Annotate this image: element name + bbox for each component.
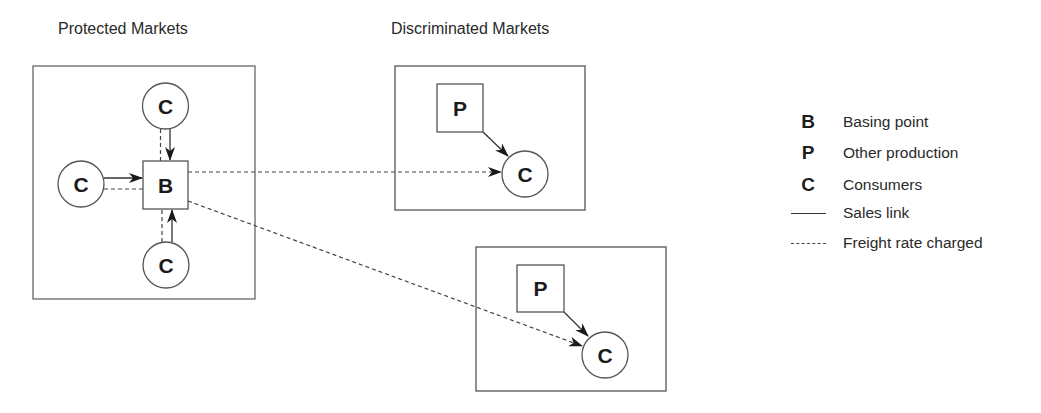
producer-label: P	[453, 97, 467, 120]
consumer-label: C	[517, 163, 532, 186]
legend-label: Other production	[843, 144, 958, 162]
legend-item-basing-point: B Basing point	[788, 109, 1038, 135]
sales-link	[483, 132, 508, 156]
discriminated-market-2: P C	[476, 247, 666, 391]
legend-item-freight-rate: Freight rate charged	[788, 230, 1038, 256]
consumer-label: C	[158, 95, 173, 118]
legend-label: Basing point	[843, 113, 928, 131]
consumer-node-bottom: C	[143, 242, 189, 288]
legend-item-consumers: C Consumers	[788, 172, 1038, 198]
basing-point-node: B	[143, 161, 188, 209]
consumer-node-top: C	[143, 83, 189, 129]
producer-node: P	[517, 265, 564, 312]
consumer-node: C	[582, 332, 628, 378]
protected-market-region: C C C B	[33, 66, 255, 299]
legend-label: Freight rate charged	[843, 234, 983, 252]
producer-node: P	[437, 84, 483, 132]
sales-link	[564, 312, 588, 336]
legend-item-sales-link: Sales link	[788, 200, 1038, 226]
consumer-label: C	[158, 254, 173, 277]
legend-label: Sales link	[843, 204, 909, 222]
consumer-label: C	[73, 173, 88, 196]
producer-label: P	[533, 277, 547, 300]
dashed-line-icon	[788, 243, 828, 244]
basing-point-label: B	[158, 174, 173, 197]
consumer-node: C	[502, 151, 548, 197]
consumer-label: C	[597, 344, 612, 367]
legend-symbol-b: B	[788, 111, 828, 133]
consumer-node-left: C	[58, 161, 104, 207]
legend-symbol-p: P	[788, 142, 828, 164]
discriminated-market-1: P C	[395, 66, 585, 210]
legend-item-other-production: P Other production	[788, 140, 1038, 166]
solid-line-icon	[788, 213, 828, 214]
legend-label: Consumers	[843, 176, 922, 194]
legend-symbol-c: C	[788, 174, 828, 196]
